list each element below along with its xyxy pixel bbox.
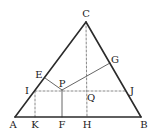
point-label-E: E — [35, 70, 42, 80]
diagram-svg — [0, 0, 154, 136]
point-label-B: B — [140, 120, 147, 130]
point-label-G: G — [111, 55, 119, 65]
point-label-A: A — [9, 120, 16, 130]
point-label-Q: Q — [87, 93, 95, 103]
side-CA — [15, 22, 86, 117]
point-label-P: P — [59, 79, 66, 89]
triangle-diagram: CEGPIJQAKFHB — [0, 0, 154, 136]
point-label-C: C — [82, 9, 90, 19]
point-label-J: J — [130, 86, 134, 96]
point-label-K: K — [31, 120, 38, 130]
point-label-F: F — [59, 120, 66, 130]
point-label-H: H — [83, 120, 92, 130]
point-label-I: I — [25, 86, 29, 96]
